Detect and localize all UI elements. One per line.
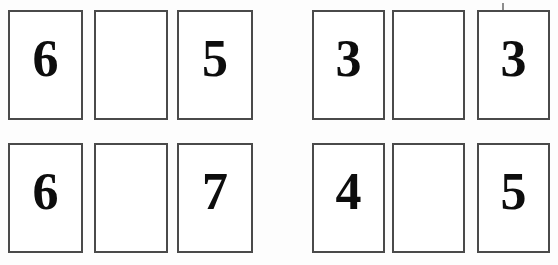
card-digit: 4 — [336, 166, 362, 218]
card-grid-canvas: 65336745 — [0, 0, 558, 265]
card-bottom-left-3[interactable]: 7 — [177, 143, 253, 253]
card-bottom-left-1[interactable]: 6 — [8, 143, 83, 253]
card-top-right-3[interactable]: 3 — [477, 10, 550, 120]
card-bottom-right-3[interactable]: 5 — [477, 143, 550, 253]
card-digit: 5 — [202, 33, 228, 85]
card-top-left-2[interactable] — [94, 10, 168, 120]
card-digit: 3 — [336, 33, 362, 85]
card-top-left-1[interactable]: 6 — [8, 10, 83, 120]
card-digit: 6 — [33, 166, 59, 218]
card-digit: 7 — [202, 166, 228, 218]
card-bottom-right-1[interactable]: 4 — [312, 143, 385, 253]
card-bottom-right-2[interactable] — [392, 143, 465, 253]
tick-mark-above-top-right-card — [502, 3, 504, 10]
card-top-left-3[interactable]: 5 — [177, 10, 253, 120]
card-bottom-left-2[interactable] — [94, 143, 168, 253]
card-top-right-1[interactable]: 3 — [312, 10, 385, 120]
card-digit: 6 — [33, 33, 59, 85]
card-digit: 3 — [501, 33, 527, 85]
card-top-right-2[interactable] — [392, 10, 465, 120]
card-digit: 5 — [501, 166, 527, 218]
